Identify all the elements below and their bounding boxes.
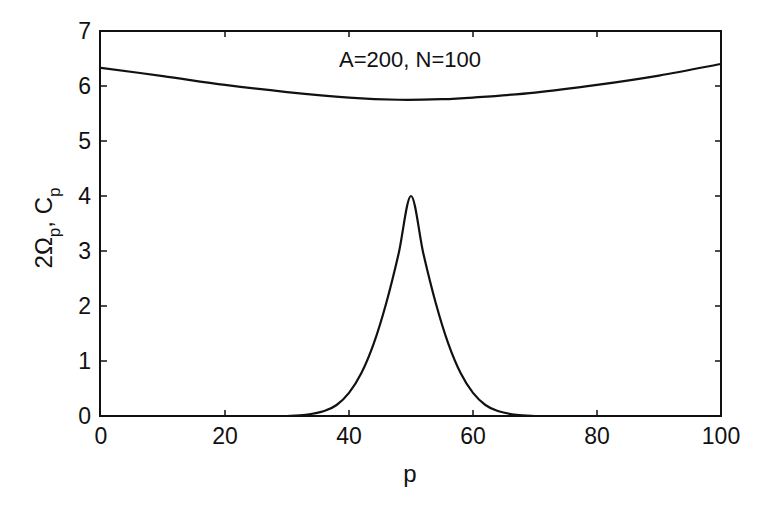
y-tick-label: 5 [78, 128, 91, 154]
x-ticks: 020406080100 [95, 31, 741, 449]
y-tick-label: 3 [78, 238, 91, 264]
plot-frame [100, 31, 721, 416]
x-axis-label: p [403, 460, 416, 487]
y-axis-label: 2Ωp, Cp [30, 188, 64, 269]
annotation-text: A=200, N=100 [339, 47, 481, 72]
y-tick-label: 6 [78, 73, 91, 99]
x-tick-label: 20 [212, 423, 238, 449]
svg-text:2Ωp, Cp: 2Ωp, Cp [30, 188, 64, 269]
x-tick-label: 0 [95, 423, 108, 449]
y-label-c: , C [30, 197, 57, 228]
y-tick-label: 4 [78, 183, 91, 209]
chart: 020406080100 01234567 A=200, N=100 p 2Ωp… [0, 0, 776, 509]
x-tick-label: 60 [460, 423, 486, 449]
y-label-sub-p1: p [45, 228, 64, 237]
y-label-sub-p2: p [45, 188, 64, 197]
y-tick-label: 1 [78, 348, 91, 374]
x-tick-label: 100 [702, 423, 740, 449]
plot-marks [101, 64, 721, 416]
x-tick-label: 80 [584, 423, 610, 449]
y-tick-label: 7 [78, 18, 91, 44]
x-tick-label: 40 [336, 423, 362, 449]
y-ticks: 01234567 [78, 18, 721, 429]
y-tick-label: 2 [78, 293, 91, 319]
y-tick-label: 0 [78, 403, 91, 429]
y-label-omega: 2Ω [30, 237, 57, 268]
series-line-cp [287, 196, 535, 416]
